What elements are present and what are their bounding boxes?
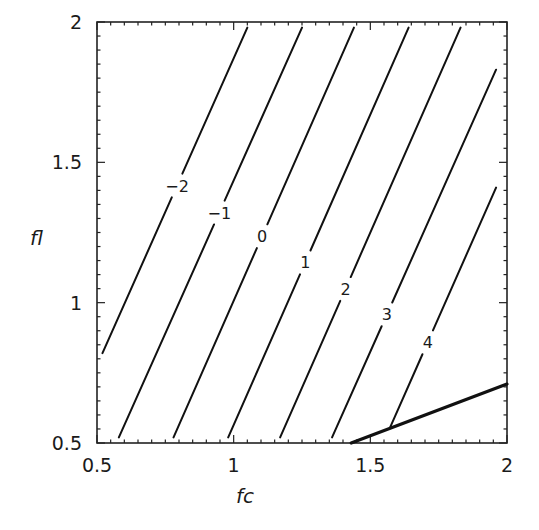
plot-frame (97, 22, 507, 443)
contour-label-4: 4 (423, 333, 433, 352)
contour-label--2: −2 (165, 177, 189, 196)
contour-line-4 (433, 188, 496, 331)
contour-label-0: 0 (257, 227, 267, 246)
contour-line--1 (119, 224, 214, 437)
y-tick-label: 1 (70, 292, 82, 314)
contour-label-2: 2 (340, 280, 350, 299)
x-tick-label: 0.5 (82, 454, 112, 476)
y-tick-label: 0.5 (52, 432, 82, 454)
contour-line-1 (228, 274, 300, 437)
contour-lines (102, 28, 507, 443)
contour-line-3 (392, 70, 496, 303)
contour-plot: −2−101234 0.511.52 0.511.52 fc fl (0, 0, 539, 530)
contour-labels: −2−101234 (165, 177, 433, 353)
contour-line--2 (182, 28, 247, 174)
contour-line-0 (267, 28, 354, 225)
contour-line-0 (174, 248, 257, 437)
x-tick-label: 2 (501, 454, 513, 476)
contour-label--1: −1 (208, 204, 232, 223)
boundary-line (351, 384, 507, 443)
contour-line-3 (332, 326, 382, 437)
contour-label-3: 3 (382, 305, 392, 324)
contour-line-1 (310, 28, 408, 251)
y-tick-label: 2 (70, 11, 82, 33)
contour-label-1: 1 (300, 253, 310, 272)
x-tick-label: 1.5 (355, 454, 385, 476)
axis-ticks (97, 22, 507, 443)
contour-line--2 (102, 197, 171, 353)
x-tick-label: 1 (228, 454, 240, 476)
y-tick-label: 1.5 (52, 151, 82, 173)
plot-border (97, 22, 507, 443)
y-axis-label: fl (30, 226, 43, 250)
contour-line-2 (351, 28, 461, 277)
x-tick-labels: 0.511.52 (82, 454, 513, 476)
contour-line-2 (280, 301, 340, 438)
y-tick-labels: 0.511.52 (52, 11, 82, 454)
x-axis-label: fc (236, 484, 254, 508)
